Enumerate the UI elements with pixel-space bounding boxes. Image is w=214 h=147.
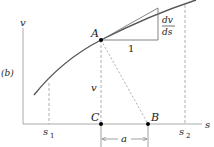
label-run: 1	[128, 43, 134, 54]
point-c	[99, 122, 103, 126]
label-s1: s	[43, 126, 48, 137]
point-a	[99, 38, 103, 42]
label-c: C	[91, 111, 100, 124]
label-b: B	[150, 111, 159, 124]
s-axis-label: s	[205, 119, 210, 130]
v-axis-label: v	[20, 17, 26, 28]
tangent-line	[101, 8, 158, 40]
label-s2-sub: 2	[186, 132, 190, 140]
label-a: A	[90, 27, 99, 40]
label-rise-num: dv	[162, 15, 173, 25]
label-rise-den: ds	[162, 27, 173, 37]
phase-plane-diagram: v s (b) A C B v a s 1 s 2 1 dv ds	[0, 0, 214, 147]
ab-dashed-line	[101, 40, 148, 124]
point-b	[146, 122, 150, 126]
label-v-segment: v	[91, 82, 97, 93]
label-a-segment: a	[121, 133, 127, 144]
panel-label: (b)	[1, 68, 14, 78]
label-s1-sub: 1	[50, 132, 54, 140]
label-s2: s	[179, 126, 184, 137]
